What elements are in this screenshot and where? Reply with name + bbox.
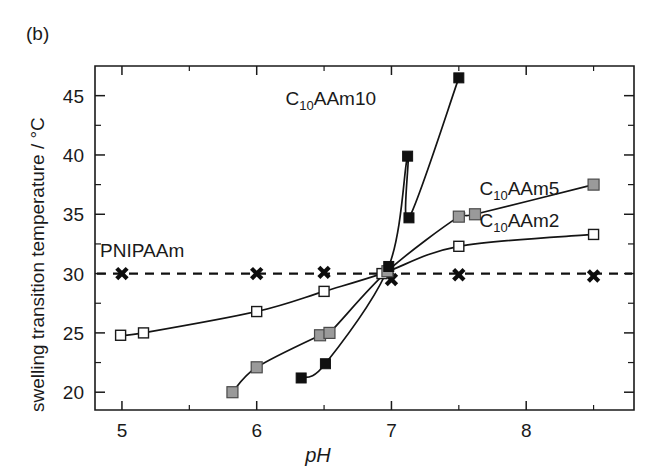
y-axis-title: swelling transition temperature / °C	[27, 117, 48, 412]
marker-open-square-c10aam2	[319, 286, 329, 296]
y-tick-label: 40	[63, 145, 84, 166]
x-tick-label: 6	[251, 420, 262, 441]
marker-open-square-c10aam2	[252, 307, 262, 317]
label-subscript: 10	[493, 220, 507, 235]
marker-gray-square-c10aam5	[251, 362, 262, 373]
marker-filled-square-c10aam10	[296, 373, 306, 383]
label-subscript: 10	[493, 188, 507, 203]
marker-open-square-c10aam2	[454, 241, 464, 251]
marker-open-square-c10aam2	[116, 330, 126, 340]
x-tick-label: 8	[521, 420, 532, 441]
x-tick-label: 5	[117, 420, 128, 441]
x-axis-title: pH	[304, 444, 331, 466]
figure-panel: (b) swelling transition temperature / °C…	[0, 0, 664, 475]
marker-filled-square-c10aam10	[454, 73, 464, 83]
marker-open-square-c10aam2	[139, 328, 149, 338]
y-tick-label: 20	[63, 382, 84, 403]
marker-gray-square-c10aam5	[453, 211, 464, 222]
label-subscript: 10	[299, 98, 313, 113]
y-tick-label: 35	[63, 204, 84, 225]
chart-background	[0, 0, 664, 475]
label-suffix: AAm2	[508, 210, 560, 231]
y-tick-label: 45	[63, 86, 84, 107]
marker-gray-square-c10aam5	[588, 179, 599, 190]
panel-label: (b)	[26, 23, 49, 44]
marker-filled-square-c10aam10	[403, 151, 413, 161]
y-tick-label: 30	[63, 264, 84, 285]
swelling-transition-chart: (b) swelling transition temperature / °C…	[0, 0, 664, 475]
label-prefix: C	[286, 88, 300, 109]
marker-open-square-c10aam2	[589, 229, 599, 239]
marker-filled-square-c10aam10	[320, 359, 330, 369]
x-tick-label: 7	[386, 420, 397, 441]
marker-gray-square-c10aam5	[324, 327, 335, 338]
label-prefix: C	[479, 178, 493, 199]
marker-filled-square-c10aam10	[384, 261, 394, 271]
marker-filled-square-c10aam10	[404, 213, 414, 223]
label-suffix: AAm5	[508, 178, 560, 199]
marker-gray-square-c10aam5	[227, 387, 238, 398]
label-prefix: C	[479, 210, 493, 231]
pnipaam-label: PNIPAAm	[100, 240, 184, 261]
label-suffix: AAm10	[314, 88, 376, 109]
y-tick-label: 25	[63, 323, 84, 344]
